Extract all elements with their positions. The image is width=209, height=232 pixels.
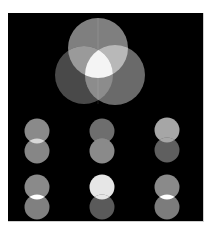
circle-pair-grid — [25, 118, 180, 220]
circle-pair — [25, 119, 50, 164]
circle-pair — [90, 119, 115, 164]
color-mixing-diagram — [0, 0, 209, 232]
circle-pair — [25, 175, 50, 220]
circle-pair — [155, 118, 180, 163]
circle-pair — [155, 175, 180, 220]
circle-pair — [90, 175, 115, 220]
three-circle-venn — [55, 18, 145, 105]
